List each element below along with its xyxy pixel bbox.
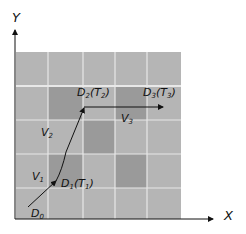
dark-cell [115, 154, 147, 188]
dark-cell [83, 120, 115, 154]
point-d2-label: D2(T2) [77, 86, 110, 100]
point-d3-label: D3(T3) [143, 86, 176, 100]
x-axis-label: X [223, 208, 234, 223]
trajectory-diagram: Y X D0 D1(T1) D2(T2) D3(T3) V1 V2 V3 [0, 0, 246, 234]
y-axis-label: Y [12, 10, 21, 25]
point-d1-label: D1(T1) [61, 177, 94, 191]
